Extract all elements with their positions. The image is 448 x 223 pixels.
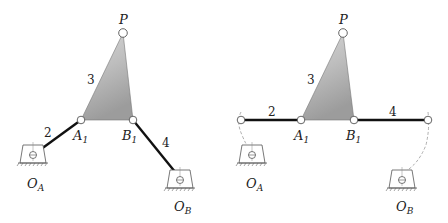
link-4 (133, 120, 180, 178)
ground-pivot-OA-icon (17, 142, 48, 166)
label-link-2: 2 (44, 126, 52, 140)
label-P: P (338, 12, 348, 27)
joint-link2-end (237, 116, 245, 124)
linkage-diagram: P 3 2 4 A1 B1 OA OB P 3 2 4 A1 B1 OA OB (0, 0, 448, 223)
joint-P (119, 29, 128, 38)
ground-pivot-OA-icon (236, 142, 267, 166)
label-OB: OB (396, 199, 414, 216)
joint-P (339, 29, 348, 38)
joint-B1 (350, 116, 358, 124)
label-B1: B1 (121, 128, 137, 145)
label-link-2: 2 (268, 105, 276, 119)
label-link-4: 4 (162, 136, 170, 150)
joint-B1 (129, 116, 137, 124)
label-OB: OB (174, 199, 192, 216)
label-B1: B1 (345, 128, 361, 145)
label-A1: A1 (72, 128, 88, 145)
joint-link4-end (424, 116, 432, 124)
label-OA: OA (246, 176, 264, 193)
label-link-4: 4 (389, 105, 397, 119)
diagram-left: P 3 2 4 A1 B1 OA OB (17, 12, 195, 216)
ground-pivot-OB-icon (164, 167, 195, 191)
joint-A1 (297, 116, 305, 124)
label-P: P (118, 12, 128, 27)
label-link-3: 3 (307, 73, 315, 87)
label-A1: A1 (293, 128, 309, 145)
joint-A1 (77, 116, 85, 124)
diagram-right: P 3 2 4 A1 B1 OA OB (236, 12, 432, 216)
ground-pivot-OB-icon (386, 167, 417, 191)
label-OA: OA (27, 176, 45, 193)
label-link-3: 3 (87, 73, 95, 87)
